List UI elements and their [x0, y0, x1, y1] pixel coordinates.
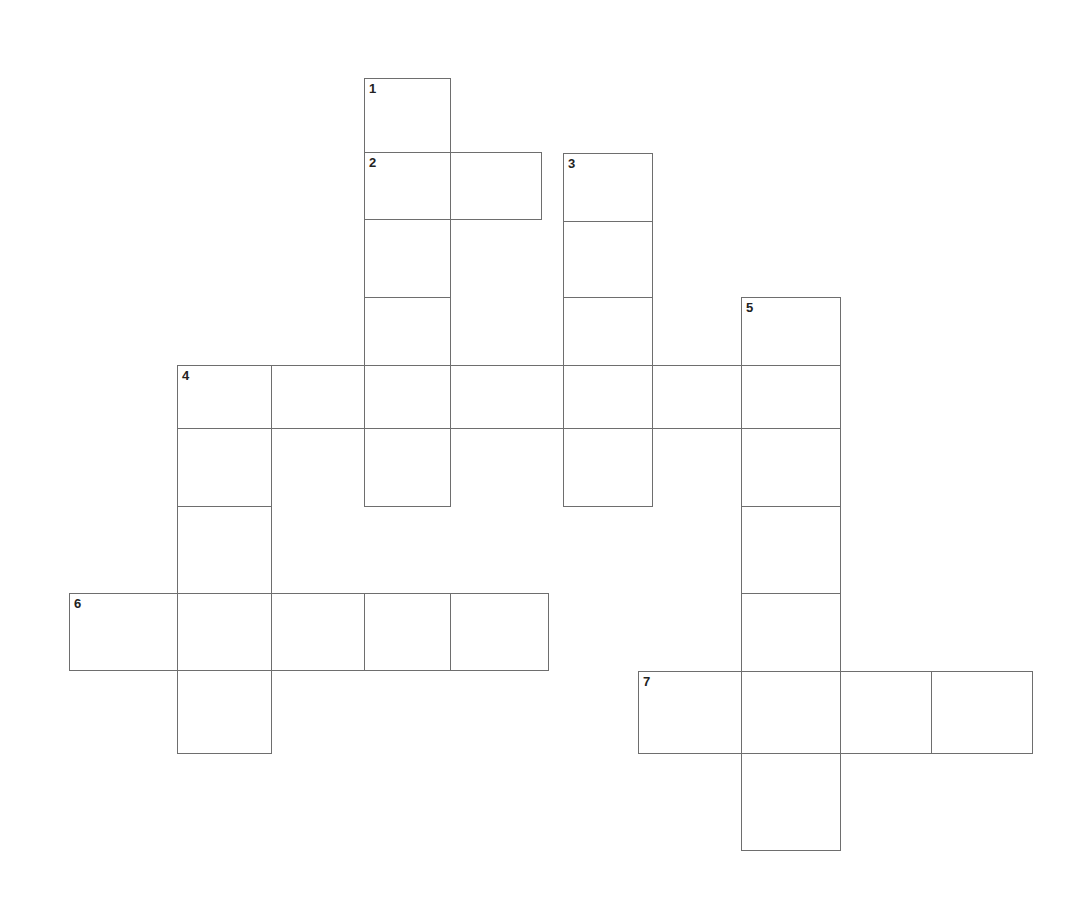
crossword-cell[interactable] — [364, 428, 451, 507]
crossword-cell[interactable] — [741, 671, 841, 754]
cell-letter — [365, 366, 450, 428]
cell-letter — [70, 594, 177, 670]
crossword-cell-clue-5[interactable]: 5 — [741, 297, 841, 366]
cell-letter — [742, 672, 840, 753]
crossword-cell[interactable] — [652, 365, 742, 429]
crossword-cell[interactable] — [177, 428, 272, 507]
crossword-cell[interactable] — [364, 593, 451, 671]
cell-letter — [178, 429, 271, 506]
crossword-cell[interactable] — [563, 221, 653, 298]
crossword-cell[interactable] — [177, 670, 272, 754]
cell-letter — [451, 153, 541, 219]
cell-letter — [564, 429, 652, 506]
cell-letter — [742, 298, 840, 365]
crossword-cell[interactable] — [450, 593, 549, 671]
cell-letter — [742, 507, 840, 593]
crossword-cell-clue-6[interactable]: 6 — [69, 593, 178, 671]
crossword-cell[interactable] — [741, 428, 841, 507]
crossword-cell[interactable] — [741, 593, 841, 672]
cell-letter — [178, 366, 271, 428]
crossword-cell-clue-3[interactable]: 3 — [563, 153, 653, 222]
crossword-cell[interactable] — [563, 297, 653, 366]
crossword-cell[interactable] — [177, 593, 272, 671]
crossword-cell[interactable] — [364, 219, 451, 298]
crossword-cell[interactable] — [364, 297, 451, 366]
crossword-cell[interactable] — [177, 506, 272, 594]
crossword-cell[interactable] — [741, 365, 841, 429]
cell-letter — [841, 672, 931, 753]
cell-letter — [365, 153, 450, 219]
crossword-cell[interactable] — [741, 506, 841, 594]
crossword-cell[interactable] — [563, 365, 653, 429]
cell-letter — [564, 222, 652, 297]
cell-letter — [365, 429, 450, 506]
cell-letter — [451, 594, 548, 670]
crossword-cell-clue-4[interactable]: 4 — [177, 365, 272, 429]
cell-letter — [932, 672, 1032, 753]
cell-letter — [178, 507, 271, 593]
cell-letter — [742, 366, 840, 428]
cell-letter — [742, 594, 840, 671]
cell-letter — [564, 154, 652, 221]
cell-letter — [365, 594, 450, 670]
crossword-cell[interactable] — [364, 365, 451, 429]
cell-letter — [653, 366, 741, 428]
crossword-cell[interactable] — [931, 671, 1033, 754]
crossword-cell[interactable] — [840, 671, 932, 754]
crossword-cell[interactable] — [271, 365, 365, 429]
cell-letter — [451, 366, 563, 428]
crossword-cell[interactable] — [450, 365, 564, 429]
cell-letter — [272, 366, 364, 428]
cell-letter — [365, 79, 450, 152]
cell-letter — [742, 754, 840, 850]
crossword-cell[interactable] — [271, 593, 365, 671]
cell-letter — [365, 220, 450, 297]
crossword-cell-clue-1[interactable]: 1 — [364, 78, 451, 153]
cell-letter — [272, 594, 364, 670]
crossword-cell[interactable] — [741, 753, 841, 851]
cell-letter — [178, 671, 271, 753]
crossword-cell-clue-2[interactable]: 2 — [364, 152, 451, 220]
crossword-cell-clue-7[interactable]: 7 — [638, 671, 742, 754]
crossword-grid: 1235467 — [0, 0, 1084, 914]
cell-letter — [178, 594, 271, 670]
crossword-cell[interactable] — [563, 428, 653, 507]
cell-letter — [564, 298, 652, 365]
cell-letter — [639, 672, 741, 753]
cell-letter — [742, 429, 840, 506]
cell-letter — [564, 366, 652, 428]
cell-letter — [365, 298, 450, 365]
crossword-cell[interactable] — [450, 152, 542, 220]
